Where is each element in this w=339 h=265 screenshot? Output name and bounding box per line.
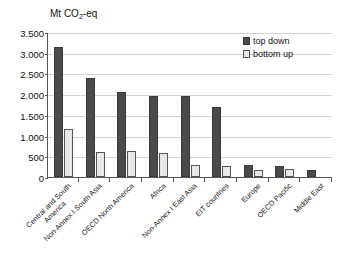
bar-top-down [54, 47, 63, 178]
y-axis-tick-label: 500 [4, 152, 44, 163]
legend-item: bottom up [243, 49, 293, 59]
bar-group [80, 33, 112, 177]
axis-unit-suffix: -eq [83, 8, 97, 19]
x-axis-label-line: Middle East [293, 182, 326, 215]
axis-unit-title: Mt CO2-eq [50, 8, 97, 20]
legend-swatch-bottom-up [243, 50, 250, 58]
bar-top-down [117, 92, 126, 177]
bar-bottom-up [96, 152, 105, 177]
legend-swatch-top-down [243, 37, 250, 45]
axis-unit-prefix: Mt CO [50, 8, 79, 19]
bar-bottom-up [64, 129, 73, 177]
x-axis-label-line: EIT countries [194, 182, 231, 219]
bar-group [206, 33, 238, 177]
y-axis-tick-label: 3.500 [4, 28, 44, 39]
y-axis-tick-label: 1.000 [4, 131, 44, 142]
bar-bottom-up [254, 170, 263, 177]
bar-chart: Mt CO2-eq 05001.0001.5002.0002.5003.0003… [0, 0, 339, 265]
bar-top-down [86, 78, 95, 177]
x-axis-category-label: EIT countries [194, 182, 231, 219]
x-axis-labels: Central and SouthAmericaNon-Annex I Sout… [47, 182, 332, 262]
bar-top-down [275, 166, 284, 177]
bar-top-down [149, 96, 158, 177]
bar-bottom-up [191, 165, 200, 177]
bar-top-down [181, 96, 190, 177]
legend-label: top down [253, 36, 290, 46]
x-axis-label-line: Africa [148, 182, 167, 201]
x-axis-category-label: Europe [240, 182, 263, 205]
y-axis-tick-label: 2.000 [4, 90, 44, 101]
legend-label: bottom up [253, 49, 293, 59]
bar-top-down [307, 170, 316, 177]
y-axis-tick-label: 0 [4, 173, 44, 184]
bar-bottom-up [285, 169, 294, 177]
bar-group [111, 33, 143, 177]
bar-top-down [212, 107, 221, 177]
bar-group [48, 33, 80, 177]
bar-group [301, 33, 333, 177]
y-axis-tick-label: 1.500 [4, 110, 44, 121]
x-axis-category-label: Middle East [293, 182, 326, 215]
bar-top-down [244, 165, 253, 177]
x-axis-category-label: Non-Annex I East Asia [141, 182, 199, 240]
bar-bottom-up [127, 151, 136, 177]
legend-item: top down [243, 36, 293, 46]
y-axis-tick-label: 3.000 [4, 48, 44, 59]
x-axis-category-label: Africa [148, 182, 167, 201]
x-axis-label-line: Non-Annex I East Asia [141, 182, 199, 240]
y-axis-tick-label: 2.500 [4, 69, 44, 80]
x-axis-label-line: Europe [240, 182, 263, 205]
bar-bottom-up [222, 166, 231, 177]
bar-group [143, 33, 175, 177]
bar-bottom-up [159, 153, 168, 177]
bar-group [174, 33, 206, 177]
chart-legend: top downbottom up [243, 36, 293, 62]
